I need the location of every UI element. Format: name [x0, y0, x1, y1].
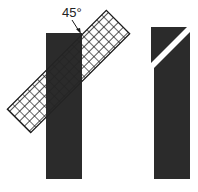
angle-label: 45° [62, 5, 82, 20]
right-bar [151, 27, 190, 179]
diagram-canvas [0, 0, 198, 192]
angle-arrow [72, 20, 81, 34]
